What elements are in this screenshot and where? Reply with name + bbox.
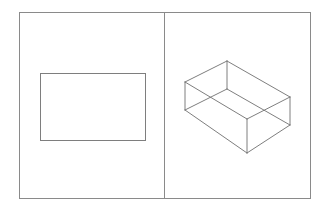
figure-canvas — [0, 0, 328, 212]
figure-root — [0, 0, 328, 212]
